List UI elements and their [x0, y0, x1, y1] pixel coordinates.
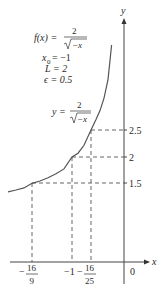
x-tick-neg-16-25: − 16 25 [77, 263, 96, 286]
x0-value: = −1 [52, 52, 71, 63]
formula-block: f(x) = 2 −x x 0 = −1 L = 2 ϵ = 0.5 [34, 26, 87, 85]
x-tick-neg-16-9: − 16 9 [19, 263, 38, 286]
y-axis-arrow-icon [122, 18, 127, 24]
curve-label: y = 2 −x [51, 100, 91, 124]
curve-label-numerator: 2 [77, 100, 82, 110]
x-axis-label: x [151, 256, 157, 267]
origin-label: 0 [130, 266, 135, 277]
epsilon-value: ϵ = 0.5 [44, 74, 72, 85]
svg-text:16: 16 [27, 263, 37, 273]
y-axis-label: y [120, 5, 126, 16]
curve-label-lhs: y = [51, 106, 66, 117]
limit-diagram: y x 0 2.5 2 1.5 − 16 9 −1 − 16 25 f(x) =… [0, 0, 158, 294]
x-axis-arrow-icon [144, 260, 150, 265]
dashed-guides [32, 130, 124, 262]
svg-text:16: 16 [85, 263, 95, 273]
f-lhs: f(x) = [34, 32, 57, 44]
y-tick-2: 2 [129, 152, 134, 163]
curve-label-denominator: −x [77, 114, 87, 124]
y-tick-2-5: 2.5 [129, 125, 142, 136]
svg-text:−: − [19, 266, 25, 277]
f-denominator: −x [72, 40, 82, 50]
svg-text:−: − [77, 266, 83, 277]
x-tick-neg-1: −1 [64, 266, 75, 277]
svg-text:25: 25 [85, 276, 95, 286]
f-numerator: 2 [72, 26, 77, 36]
y-tick-1-5: 1.5 [129, 178, 142, 189]
svg-text:9: 9 [30, 276, 35, 286]
L-value: L = 2 [44, 63, 67, 74]
